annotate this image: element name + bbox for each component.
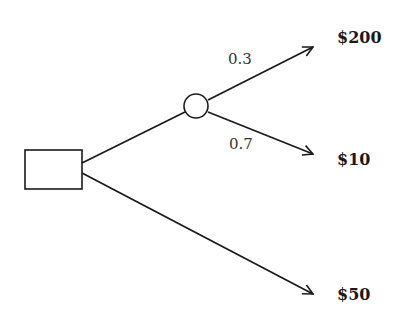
probability-label-high: 0.3 (228, 50, 252, 68)
branch-to-50 (82, 173, 313, 294)
payoff-label-200: $200 (337, 28, 382, 47)
branch-to-chance-node (82, 112, 185, 163)
decision-node-square (25, 150, 82, 189)
probability-label-low: 0.7 (229, 135, 253, 153)
chance-node-circle (184, 94, 208, 118)
branch-to-200 (208, 47, 313, 100)
payoff-label-10: $10 (337, 150, 370, 169)
payoff-label-50: $50 (337, 285, 370, 304)
branch-to-10 (208, 112, 313, 154)
